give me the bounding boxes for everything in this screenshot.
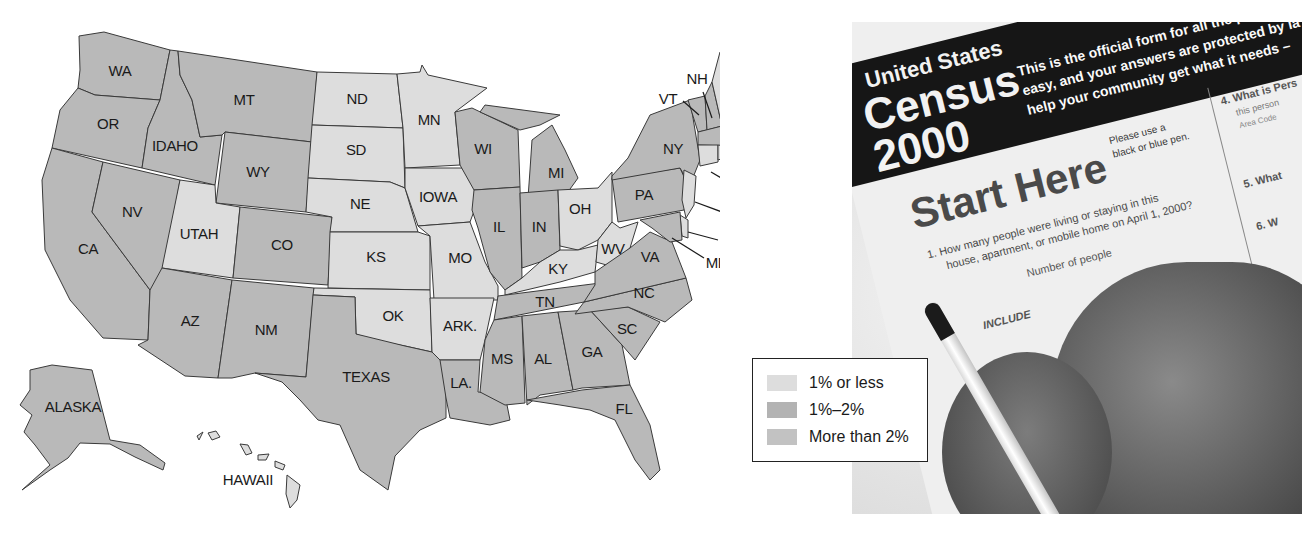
question5-label: 5. What — [1242, 169, 1283, 190]
label-sc: SC — [617, 320, 638, 337]
legend-item-low: 1% or less — [767, 369, 927, 396]
state-ri — [718, 145, 720, 160]
label-al: AL — [534, 350, 552, 367]
label-il: IL — [493, 218, 505, 235]
label-ok: OK — [382, 307, 403, 324]
label-ark: ARK. — [443, 317, 477, 334]
label-fl: FL — [616, 400, 633, 417]
state-ak — [20, 365, 165, 490]
label-wi: WI — [474, 140, 492, 157]
census-map: WA OR CA NV IDAHO MT WY UTAH CO AZ NM ND… — [0, 0, 720, 535]
label-idaho: IDAHO — [152, 137, 198, 154]
label-in: IN — [532, 218, 546, 235]
label-texas: TEXAS — [342, 368, 390, 385]
label-nd: ND — [346, 90, 368, 107]
label-nv: NV — [122, 203, 143, 220]
leader-nj — [695, 202, 720, 212]
number-of-people-label: Number of people — [1025, 246, 1113, 279]
legend-swatch-mid — [767, 402, 797, 418]
label-mo: MO — [448, 249, 472, 266]
label-wa: WA — [108, 62, 131, 79]
label-hawaii: HAWAII — [223, 471, 273, 488]
label-pa: PA — [635, 186, 654, 203]
label-az: AZ — [181, 312, 200, 329]
include-label: INCLUDE — [982, 308, 1032, 331]
leader-ct — [711, 172, 720, 185]
map-legend: 1% or less 1%–2% More than 2% — [752, 358, 928, 462]
label-sd: SD — [346, 141, 367, 158]
label-mn: MN — [418, 111, 441, 128]
label-co: CO — [271, 236, 293, 253]
leader-de — [688, 232, 718, 240]
label-va: VA — [641, 248, 660, 265]
legend-swatch-high — [767, 429, 797, 445]
state-ct — [698, 145, 718, 166]
label-mi: MI — [548, 164, 564, 181]
label-wv: WV — [601, 240, 625, 257]
us-states-map: WA OR CA NV IDAHO MT WY UTAH CO AZ NM ND… — [0, 0, 720, 535]
label-nm: NM — [255, 321, 278, 338]
state-nj — [682, 170, 696, 218]
label-or: OR — [97, 115, 119, 132]
label-md: MD — [706, 254, 720, 271]
legend-label-high: More than 2% — [809, 428, 909, 446]
question6-label: 6. W — [1255, 215, 1280, 232]
label-ky: KY — [548, 260, 568, 277]
legend-item-high: More than 2% — [767, 423, 927, 450]
label-mt: MT — [233, 91, 254, 108]
label-tn: TN — [535, 293, 554, 310]
legend-swatch-low — [767, 375, 797, 391]
legend-item-mid: 1%–2% — [767, 396, 927, 423]
state-fl — [527, 385, 660, 480]
label-ne: NE — [350, 195, 371, 212]
legend-label-low: 1% or less — [809, 374, 884, 392]
state-hi — [197, 431, 300, 508]
label-la: LA. — [450, 374, 472, 391]
label-ks: KS — [366, 248, 386, 265]
label-iowa: IOWA — [419, 188, 458, 205]
label-ny: NY — [663, 140, 684, 157]
label-alaska: ALASKA — [45, 398, 102, 415]
label-ga: GA — [581, 343, 602, 360]
label-utah: UTAH — [180, 225, 219, 242]
label-ca: CA — [78, 240, 99, 257]
label-wy: WY — [246, 163, 270, 180]
label-nc: NC — [633, 284, 655, 301]
label-ms: MS — [491, 350, 513, 367]
label-vt: VT — [659, 90, 678, 107]
legend-label-mid: 1%–2% — [809, 401, 864, 419]
label-nh: NH — [686, 70, 707, 87]
label-oh: OH — [569, 200, 591, 217]
